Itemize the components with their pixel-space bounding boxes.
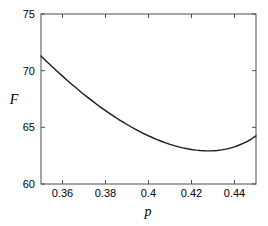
x-tick-label: 0.38: [95, 187, 116, 199]
y-axis-title: F: [9, 92, 19, 107]
y-tick-label: 70: [23, 65, 35, 77]
x-axis-ticks: [63, 180, 235, 184]
x-tick-label: 0.4: [141, 187, 156, 199]
x-tick-label: 0.36: [52, 187, 73, 199]
x-tick-label: 0.44: [224, 187, 245, 199]
y-axis-ticks: [41, 14, 45, 184]
figure-container: 0.360.380.40.420.44 60657075 p F: [0, 0, 268, 226]
y-tick-label: 65: [23, 121, 35, 133]
y-tick-label: 60: [23, 178, 35, 190]
plot-frame: [41, 14, 256, 184]
y-axis-tick-labels: 60657075: [23, 8, 35, 190]
x-axis-title: p: [144, 204, 152, 219]
x-axis-ticks-top: [63, 14, 235, 18]
x-tick-label: 0.42: [181, 187, 202, 199]
y-tick-label: 75: [23, 8, 35, 20]
x-axis-tick-labels: 0.360.380.40.420.44: [52, 187, 245, 199]
data-series-line: [41, 56, 256, 151]
y-axis-ticks-right: [252, 14, 256, 184]
chart-canvas: 0.360.380.40.420.44 60657075 p F: [0, 0, 268, 226]
